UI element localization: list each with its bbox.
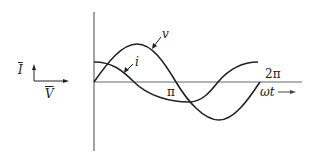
i-leader-arrowhead-icon bbox=[124, 67, 129, 73]
voltage-curve-label: v bbox=[162, 28, 169, 40]
current-phasor-label: I bbox=[18, 64, 23, 76]
voltage-arrowhead-icon bbox=[63, 79, 69, 83]
two-pi-label: 2π bbox=[265, 68, 281, 80]
current-arrowhead-icon bbox=[32, 64, 36, 70]
voltage-phasor-label: V bbox=[45, 88, 54, 100]
pi-label: π bbox=[167, 86, 175, 98]
wt-arrowhead-icon bbox=[290, 90, 296, 94]
current-curve-label: i bbox=[135, 56, 139, 68]
waveform-diagram: I V v i π 2π ωt bbox=[0, 0, 317, 159]
omega-t-label: ωt bbox=[260, 86, 275, 98]
phasor-diagram bbox=[32, 64, 69, 83]
